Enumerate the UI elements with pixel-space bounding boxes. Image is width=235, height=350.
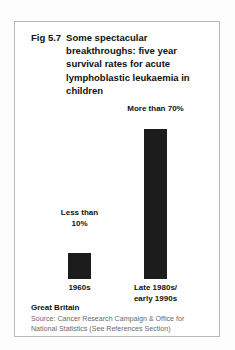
figure-footer: Great Britain Source: Cancer Research Ca… — [31, 302, 211, 334]
region-label: Great Britain — [31, 302, 211, 313]
figure-page: Fig 5.7 Some spectacular breakthroughs: … — [0, 0, 235, 350]
bar-value-label-line-2: than — [81, 208, 98, 217]
bar-value-label-line-3: 10% — [71, 219, 87, 228]
bar-chart-plot: More than 70% Less than 10% 1960s Late 1… — [15, 22, 219, 336]
x-axis-label-line-1: 1960s — [52, 283, 107, 294]
x-axis-label-line-1: Late 1980s/ — [119, 283, 192, 294]
x-axis-label-late1980s: Late 1980s/ early 1990s — [119, 283, 192, 304]
source-note: Source: Cancer Research Campaign & Offic… — [31, 315, 211, 334]
bar-value-label-line-1: Less — [61, 208, 79, 217]
bar-late1980s — [144, 129, 167, 279]
bar-value-label-1960s: Less than 10% — [52, 208, 107, 229]
figure-frame: Fig 5.7 Some spectacular breakthroughs: … — [14, 21, 220, 337]
bar-value-label-late1980s: More than 70% — [125, 104, 186, 115]
bar-value-label-line-1: More than — [127, 104, 165, 113]
bar-1960s — [68, 253, 91, 279]
bar-value-label-line-2: 70% — [168, 104, 184, 113]
x-axis-label-1960s: 1960s — [52, 283, 107, 294]
